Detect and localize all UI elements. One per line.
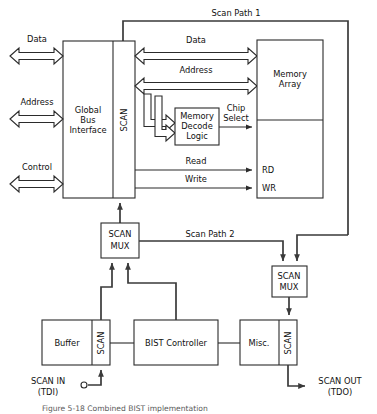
address-branch-bus-2: [155, 96, 175, 141]
chip-select-label-line1: Chip: [227, 103, 246, 113]
global-bus-interface-label-line1: Global: [75, 105, 101, 115]
figure-caption: Figure 5-18 Combined BIST implementation: [42, 404, 208, 413]
control-external-bus-arrow: [10, 176, 63, 192]
scan-in-wire: [81, 370, 101, 388]
buffer-label: Buffer: [54, 338, 80, 348]
data-bus-arrow: [135, 48, 257, 64]
block-diagram-figure: Scan Path 1 Global Bus Interface SCAN Da…: [0, 0, 377, 414]
gbi-scan-label: SCAN: [119, 109, 129, 132]
memory-decode-label-line2: Decode: [181, 121, 213, 131]
scan-mux-lower-label-line2: MUX: [280, 282, 299, 292]
misc-label: Misc.: [249, 338, 270, 348]
misc-scan-label: SCAN: [283, 332, 293, 355]
control-external-label: Control: [22, 162, 52, 172]
scan-path-1-to-lower-mux-wire: [297, 235, 348, 261]
scan-out-wire: [288, 365, 305, 386]
memory-array-label-line1: Memory: [273, 69, 307, 79]
buffer-scan-to-mux-wire: [101, 263, 112, 320]
scan-out-label-line2: (TDO): [328, 387, 352, 397]
data-external-label: Data: [27, 34, 47, 44]
global-bus-interface-label-line3: Interface: [69, 125, 106, 135]
scan-path-2-label: Scan Path 2: [186, 229, 235, 239]
data-bus-label: Data: [186, 35, 206, 45]
address-external-label: Address: [20, 97, 53, 107]
global-bus-interface-label-line2: Bus: [80, 115, 95, 125]
scan-mux-upper-label-line1: SCAN: [109, 229, 132, 239]
address-bus-arrow: [135, 78, 257, 94]
wr-label: WR: [262, 183, 276, 193]
address-bus-label: Address: [179, 65, 212, 75]
memory-decode-label-line1: Memory: [180, 111, 214, 121]
scan-path-2-wire: [139, 241, 283, 261]
data-external-bus-arrow: [10, 48, 63, 64]
bist-controller-label: BIST Controller: [145, 338, 208, 348]
memory-array-label-line2: Array: [279, 79, 301, 89]
scan-mux-lower-label-line1: SCAN: [278, 271, 301, 281]
scan-mux-upper-label-line2: MUX: [111, 241, 130, 251]
chip-select-label-line2: Select: [223, 113, 249, 123]
address-external-bus-arrow: [10, 111, 63, 127]
bist-to-mux-wire: [128, 263, 176, 320]
scan-in-label-line1: SCAN IN: [31, 376, 65, 386]
read-label: Read: [186, 156, 207, 166]
rd-label: RD: [262, 165, 274, 175]
memory-decode-label-line3: Logic: [186, 131, 208, 141]
scan-out-label-line1: SCAN OUT: [318, 376, 362, 386]
scan-path-1-label: Scan Path 1: [212, 8, 261, 18]
diagram-canvas: Scan Path 1 Global Bus Interface SCAN Da…: [0, 0, 377, 414]
scan-in-label-line2: (TDI): [38, 387, 58, 397]
buffer-scan-label: SCAN: [96, 332, 106, 355]
write-label: Write: [185, 174, 207, 184]
